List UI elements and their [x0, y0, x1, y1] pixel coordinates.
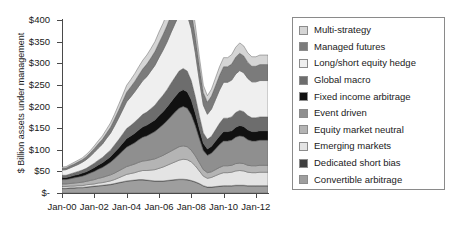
y-tick-label: $50 [2, 166, 50, 176]
legend-swatch-icon [299, 59, 308, 68]
legend-swatch-icon [299, 76, 308, 85]
x-tick-mark [127, 193, 128, 198]
legend-label: Multi-strategy [314, 25, 371, 35]
stacked-area-series [62, 20, 268, 193]
legend-label: Long/short equity hedge [314, 58, 416, 68]
legend-item[interactable]: Event driven [299, 105, 444, 122]
x-axis-line [62, 193, 269, 194]
legend-item[interactable]: Emerging markets [299, 138, 444, 155]
legend-label: Dedicated short bias [314, 158, 401, 168]
x-tick-mark [256, 193, 257, 198]
legend-item[interactable]: Dedicated short bias [299, 155, 444, 172]
x-tick-mark [94, 193, 95, 198]
legend-label: Event driven [314, 108, 367, 118]
y-tick-label: $300 [2, 58, 50, 68]
x-tick-label: Jan-12 [230, 201, 282, 212]
y-tick-label: $250 [2, 80, 50, 90]
y-tick-label: $100 [2, 145, 50, 155]
x-tick-mark [159, 193, 160, 198]
legend-label: Equity market neutral [314, 125, 404, 135]
y-tick-label: $- [2, 188, 50, 198]
legend-swatch-icon [299, 125, 308, 134]
y-tick-label: $350 [2, 37, 50, 47]
y-tick-label: $200 [2, 102, 50, 112]
legend-item[interactable]: Long/short equity hedge [299, 55, 444, 72]
legend-swatch-icon [299, 175, 308, 184]
legend-item[interactable]: Multi-strategy [299, 22, 444, 39]
legend-label: Convertible arbitrage [314, 175, 402, 185]
x-tick-mark [62, 193, 63, 198]
legend-item[interactable]: Convertible arbitrage [299, 171, 444, 188]
x-tick-mark [224, 193, 225, 198]
legend-swatch-icon [299, 109, 308, 118]
y-tick-label: $400 [2, 15, 50, 25]
chart-legend: Multi-strategyManaged futuresLong/short … [292, 17, 445, 190]
legend-label: Emerging markets [314, 141, 391, 151]
legend-label: Managed futures [314, 42, 385, 52]
x-tick-mark [191, 193, 192, 198]
legend-item[interactable]: Equity market neutral [299, 122, 444, 139]
legend-swatch-icon [299, 142, 308, 151]
legend-swatch-icon [299, 159, 308, 168]
legend-swatch-icon [299, 42, 308, 51]
legend-item[interactable]: Global macro [299, 72, 444, 89]
legend-item[interactable]: Managed futures [299, 39, 444, 56]
legend-label: Global macro [314, 75, 371, 85]
legend-label: Fixed income arbitrage [314, 92, 411, 102]
plot-area [62, 20, 268, 193]
y-tick-label: $150 [2, 123, 50, 133]
legend-item[interactable]: Fixed income arbitrage [299, 88, 444, 105]
legend-swatch-icon [299, 92, 308, 101]
chart-figure: $ Billion assets under management $-$50$… [0, 0, 453, 227]
legend-swatch-icon [299, 26, 308, 35]
